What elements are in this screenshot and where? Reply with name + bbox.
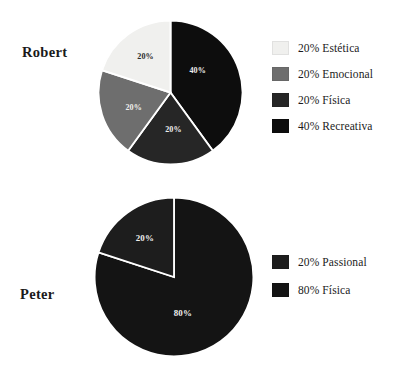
pie-graphic-robert: 40% 20% 20% 20% — [97, 19, 244, 166]
legend-item-fisica[interactable]: 20% Física — [272, 92, 373, 107]
pie-svg-peter: 80% 20% — [93, 196, 255, 358]
legend-label-fisica-peter: 80% Física — [298, 284, 350, 296]
chart-title-peter: Peter — [20, 286, 55, 303]
pie-slice-value-recreativa: 40% — [189, 66, 206, 75]
legend-label-recreativa: 40% Recreativa — [298, 120, 373, 132]
legend-item-passional[interactable]: 20% Passional — [272, 254, 367, 269]
legend-swatch-emocional — [272, 67, 289, 81]
legend-label-emocional: 20% Emocional — [298, 68, 373, 80]
legend-swatch-fisica — [272, 93, 289, 107]
legend-item-recreativa[interactable]: 40% Recreativa — [272, 118, 373, 133]
legend-peter: 20% Passional 80% Física — [272, 254, 367, 297]
pie-chart-robert: Robert 40% 20% 20% 20% 20% Estética 20% … — [0, 0, 398, 188]
legend-swatch-fisica-peter — [272, 283, 289, 297]
pie-slice-value-fisica: 20% — [165, 125, 182, 134]
legend-item-fisica-peter[interactable]: 80% Física — [272, 282, 367, 297]
legend-item-estetica[interactable]: 20% Estética — [272, 40, 373, 55]
pie-slice-value-emocional: 20% — [125, 103, 142, 112]
pie-svg-robert: 40% 20% 20% 20% — [97, 19, 244, 166]
legend-swatch-recreativa — [272, 119, 289, 133]
pie-slice-value-passional-peter: 20% — [136, 233, 154, 243]
pie-slice-value-fisica-peter: 80% — [174, 308, 192, 318]
legend-robert: 20% Estética 20% Emocional 20% Física 40… — [272, 40, 373, 133]
pie-slice-value-estetica: 20% — [137, 52, 154, 61]
chart-title-robert: Robert — [22, 44, 67, 61]
legend-item-emocional[interactable]: 20% Emocional — [272, 66, 373, 81]
pie-graphic-peter: 80% 20% — [93, 196, 255, 358]
pie-chart-peter: Peter 80% 20% 20% Passional 80% Física — [0, 188, 398, 376]
legend-label-estetica: 20% Estética — [298, 42, 360, 54]
legend-label-fisica: 20% Física — [298, 94, 350, 106]
legend-swatch-estetica — [272, 41, 289, 55]
legend-label-passional: 20% Passional — [298, 256, 367, 268]
legend-swatch-passional — [272, 255, 289, 269]
